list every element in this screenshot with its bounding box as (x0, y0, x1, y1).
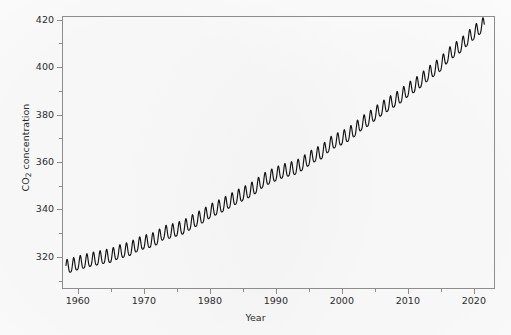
x-tick-label-1980: 1980 (198, 296, 222, 306)
co2-keeling-curve-line (66, 18, 484, 272)
x-axis-label: Year (0, 312, 511, 323)
x-tick-major-1970 (144, 289, 145, 294)
x-tick-major-1990 (276, 289, 277, 294)
y-axis-label: CO2 concentration (20, 78, 31, 218)
y-axis-label-suffix: concentration (20, 104, 31, 173)
x-tick-major-2020 (474, 289, 475, 294)
x-tick-label-1970: 1970 (132, 296, 156, 306)
x-tick-minor-1965 (111, 289, 112, 292)
x-tick-label-1990: 1990 (264, 296, 288, 306)
x-tick-major-2000 (342, 289, 343, 294)
y-tick-label-420: 420 (36, 15, 54, 25)
x-tick-major-1960 (78, 289, 79, 294)
x-tick-minor-1995 (309, 289, 310, 292)
plot-area (62, 16, 495, 289)
x-tick-major-1980 (210, 289, 211, 294)
x-tick-minor-1975 (177, 289, 178, 292)
y-tick-label-360: 360 (36, 157, 54, 167)
x-tick-minor-2015 (441, 289, 442, 292)
y-tick-label-380: 380 (36, 110, 54, 120)
y-tick-label-340: 340 (36, 204, 54, 214)
y-tick-label-400: 400 (36, 62, 54, 72)
x-tick-label-2000: 2000 (330, 296, 354, 306)
x-tick-major-2010 (408, 289, 409, 294)
y-axis-label-text: CO (20, 177, 31, 191)
x-tick-label-1960: 1960 (66, 296, 90, 306)
chart-figure: CO2 concentration Year 32034036038040042… (0, 0, 511, 335)
y-tick-label-320: 320 (36, 252, 54, 262)
x-tick-minor-2005 (375, 289, 376, 292)
x-tick-minor-1985 (243, 289, 244, 292)
y-axis-label-subscript: 2 (24, 172, 33, 177)
x-tick-label-2010: 2010 (396, 296, 420, 306)
x-tick-label-2020: 2020 (462, 296, 486, 306)
